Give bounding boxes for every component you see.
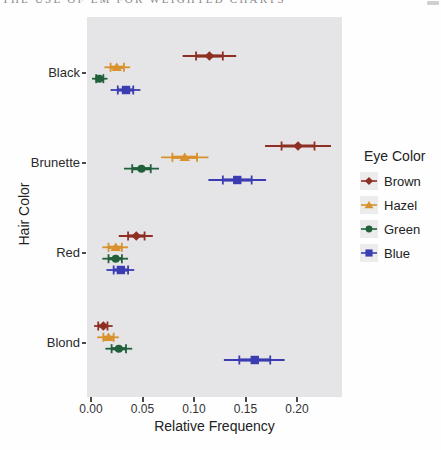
- x-tick-label-0.05: 0.05: [121, 402, 165, 416]
- y-tick-label-black: Black: [8, 65, 80, 81]
- circle-legend-key-icon: [360, 221, 378, 237]
- y-tick-label-brunette: Brunette: [8, 155, 80, 171]
- legend-entry-green: Green: [360, 220, 425, 238]
- plot-panel-svg: [87, 17, 342, 397]
- y-tick-mark-blond: [82, 342, 86, 344]
- square-legend-marker: [365, 249, 372, 256]
- y-tick-label-red: Red: [8, 245, 80, 261]
- square-point-marker-blue: [117, 266, 125, 274]
- square-point-marker-blue: [251, 356, 259, 364]
- legend-title: Eye Color: [364, 148, 425, 164]
- y-tick-mark-red: [82, 252, 86, 254]
- legend-entry-blue: Blue: [360, 244, 425, 262]
- x-tick-label-0.10: 0.10: [172, 402, 216, 416]
- triangle-legend-key-icon: [360, 197, 378, 213]
- legend: Eye Color BrownHazelGreenBlue: [360, 148, 425, 268]
- x-tick-label-0.00: 0.00: [69, 402, 113, 416]
- y-tick-mark-brunette: [82, 162, 86, 164]
- plot-panel: [87, 17, 342, 397]
- square-point-marker-blue: [233, 176, 241, 184]
- legend-label-green: Green: [384, 222, 420, 237]
- x-tick-label-0.15: 0.15: [224, 402, 268, 416]
- x-tick-label-0.20: 0.20: [275, 402, 319, 416]
- y-tick-mark-black: [82, 72, 86, 74]
- square-legend-key-icon: [360, 245, 378, 261]
- scanned-figure-page: THE USE OF EM FOR WEIGHTED CHARTS Hair C…: [0, 0, 441, 450]
- legend-label-hazel: Hazel: [384, 198, 417, 213]
- legend-key-chip-blue: [360, 244, 378, 262]
- y-tick-label-blond: Blond: [8, 335, 80, 351]
- circle-point-marker-green: [115, 345, 123, 353]
- diamond-point-marker-brown: [132, 231, 142, 241]
- legend-key-chip-green: [360, 220, 378, 238]
- legend-key-chip-hazel: [360, 196, 378, 214]
- clipped-page-header-text: THE USE OF EM FOR WEIGHTED CHARTS: [2, 0, 312, 5]
- diamond-point-marker-brown: [205, 51, 215, 61]
- diamond-legend-marker: [365, 177, 373, 185]
- square-point-marker-blue: [122, 86, 130, 94]
- legend-entry-hazel: Hazel: [360, 196, 425, 214]
- x-axis-title: Relative Frequency: [87, 418, 342, 434]
- legend-label-brown: Brown: [384, 174, 421, 189]
- circle-legend-marker: [366, 226, 373, 233]
- page-corner-mark: [427, 1, 439, 5]
- circle-point-marker-green: [137, 165, 145, 173]
- diamond-point-marker-brown: [293, 141, 303, 151]
- diamond-legend-key-icon: [360, 173, 378, 189]
- circle-point-marker-green: [112, 255, 120, 263]
- legend-entry-brown: Brown: [360, 172, 425, 190]
- legend-key-chip-brown: [360, 172, 378, 190]
- circle-point-marker-green: [95, 75, 103, 83]
- legend-entries: BrownHazelGreenBlue: [360, 172, 425, 262]
- clipped-page-header: THE USE OF EM FOR WEIGHTED CHARTS: [2, 0, 312, 8]
- legend-label-blue: Blue: [384, 246, 410, 261]
